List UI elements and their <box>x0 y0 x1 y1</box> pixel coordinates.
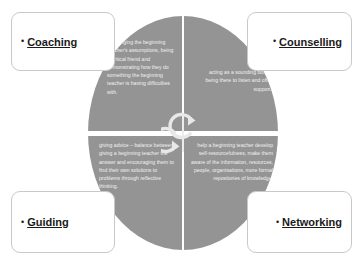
label-box-guiding[interactable]: • Guiding <box>11 191 115 253</box>
quadrant-counselling-text: acting as a sounding board, being there … <box>200 68 272 93</box>
label-networking: Networking <box>282 216 342 228</box>
label-box-coaching[interactable]: • Coaching <box>11 12 115 71</box>
label-counselling: Counselling <box>279 36 342 48</box>
label-row-networking: • Networking <box>276 216 342 228</box>
mentoring-roles-diagram: challenging the beginning teacher's assu… <box>0 0 363 277</box>
bullet-icon: • <box>273 37 276 46</box>
quadrant-coaching-text: challenging the beginning teacher's assu… <box>107 38 177 96</box>
label-row-guiding: • Guiding <box>21 216 69 228</box>
bullet-icon: • <box>21 37 24 46</box>
bullet-icon: • <box>21 218 24 227</box>
cycle-arrows-icon <box>161 110 205 156</box>
label-row-counselling: • Counselling <box>273 36 342 48</box>
bullet-icon: • <box>276 218 279 227</box>
label-guiding: Guiding <box>27 216 69 228</box>
label-coaching: Coaching <box>27 36 77 48</box>
label-box-counselling[interactable]: • Counselling <box>247 12 352 71</box>
label-box-networking[interactable]: • Networking <box>247 191 352 253</box>
label-row-coaching: • Coaching <box>21 36 77 48</box>
